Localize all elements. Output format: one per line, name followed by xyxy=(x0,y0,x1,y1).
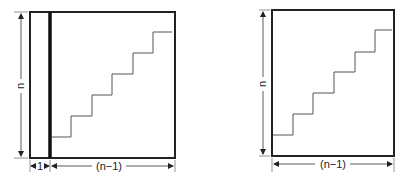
left-figure: n 1 (n−1) xyxy=(14,12,175,172)
right-width-label-nminus1: (n−1) xyxy=(320,158,346,170)
right-height-label: n xyxy=(256,81,268,87)
diagram-canvas: n 1 (n−1) n (n−1) xyxy=(0,0,413,180)
right-figure: n (n−1) xyxy=(256,10,394,172)
left-staircase xyxy=(52,32,172,137)
right-staircase xyxy=(273,30,392,135)
left-width-label-1: 1 xyxy=(37,160,43,172)
left-height-label: n xyxy=(14,83,26,89)
left-width-label-nminus1: (n−1) xyxy=(96,160,122,172)
right-outer-box xyxy=(272,10,394,156)
